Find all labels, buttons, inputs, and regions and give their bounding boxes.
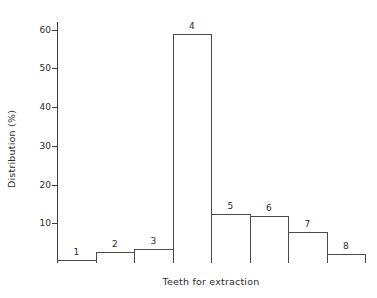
bar <box>173 34 213 263</box>
y-axis-tick-label: 50 <box>21 64 51 73</box>
bar <box>288 232 328 263</box>
bar-category-label: 3 <box>134 237 173 246</box>
y-axis-line <box>57 22 58 263</box>
y-axis-tick-label: 10 <box>21 219 51 228</box>
bar <box>250 216 290 263</box>
bar <box>211 214 251 263</box>
bar <box>57 260 97 263</box>
bar-category-label: 8 <box>327 242 366 251</box>
y-axis-tick <box>52 146 58 147</box>
bar-category-label: 6 <box>250 204 289 213</box>
bar-category-label: 5 <box>211 202 250 211</box>
bar-category-label: 1 <box>57 248 96 257</box>
y-axis-tick-label: 20 <box>21 181 51 190</box>
bar-category-label: 7 <box>288 220 327 229</box>
x-axis-title: Teeth for extraction <box>57 276 365 287</box>
y-axis-tick-label: 60 <box>21 26 51 35</box>
bar-category-label: 4 <box>173 22 212 31</box>
y-axis-tick-labels: 102030405060 <box>19 22 51 263</box>
bar <box>134 249 174 263</box>
y-axis-tick <box>52 185 58 186</box>
bar <box>327 254 367 263</box>
y-axis-tick-label: 30 <box>21 142 51 151</box>
bar <box>96 252 136 263</box>
plot-area: 102030405060 12345678 <box>57 22 365 263</box>
y-axis-tick <box>52 30 58 31</box>
y-axis-tick <box>52 107 58 108</box>
y-axis-tick-label: 40 <box>21 103 51 112</box>
bar-category-label: 2 <box>96 240 135 249</box>
y-axis-tick <box>52 223 58 224</box>
y-axis-tick <box>52 68 58 69</box>
chart-figure: Distribution (%) 102030405060 12345678 T… <box>0 0 377 298</box>
